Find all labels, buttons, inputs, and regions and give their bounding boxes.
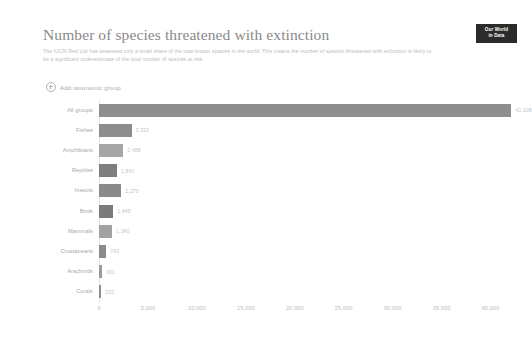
x-tick-label: 35,000 (433, 305, 451, 311)
x-tick-label: 25,000 (335, 305, 353, 311)
bar-row[interactable]: Corals232 (99, 282, 515, 302)
bar[interactable] (99, 285, 101, 298)
chart-header: Number of species threatened with extinc… (43, 26, 514, 64)
add-taxonomic-group-button[interactable]: Add taxonomic group (46, 82, 121, 92)
bar-value-label: 1,445 (117, 208, 130, 214)
plus-circle-icon (46, 82, 56, 92)
bar-category-label: Mammals (41, 228, 93, 234)
bar-value-label: 2,270 (125, 188, 138, 194)
bar[interactable] (99, 124, 132, 137)
owid-logo-line2: in Data (476, 33, 517, 39)
owid-logo[interactable]: Our World in Data (476, 24, 517, 43)
plot-area: All groups42,108Fishes3,332Amphibians2,4… (99, 100, 515, 299)
bar-category-label: Amphibians (41, 147, 93, 153)
bar-row[interactable]: Arachnids301 (99, 262, 515, 282)
bar-chart: All groups42,108Fishes3,332Amphibians2,4… (43, 100, 515, 315)
bar-category-label: Insects (41, 187, 93, 193)
bar[interactable] (99, 144, 123, 157)
add-taxonomic-group-label: Add taxonomic group (60, 84, 121, 91)
bar-value-label: 3,332 (136, 127, 149, 133)
bar-category-label: Fishes (41, 127, 93, 133)
x-tick-label: 5,000 (141, 305, 156, 311)
page-title: Number of species threatened with extinc… (43, 26, 514, 44)
page-subtitle: The IUCN Red List has assessed only a sm… (43, 47, 435, 64)
bar-row[interactable]: Birds1,445 (99, 201, 515, 221)
bar-category-label: Birds (41, 208, 93, 214)
bar-category-label: Crustaceans (41, 248, 93, 254)
bar[interactable] (99, 164, 117, 177)
x-tick-label: 40,000 (482, 305, 500, 311)
bar-value-label: 301 (106, 269, 115, 275)
bar[interactable] (99, 265, 102, 278)
x-tick-label: 10,000 (188, 305, 206, 311)
bar-row[interactable]: Crustaceans743 (99, 241, 515, 261)
bar[interactable] (99, 225, 112, 238)
bar-value-label: 42,108 (515, 107, 531, 113)
bar-category-label: Reptiles (41, 167, 93, 173)
bar-row[interactable]: Amphibians2,488 (99, 140, 515, 160)
bar[interactable] (99, 184, 121, 197)
bar-category-label: All groups (41, 107, 93, 113)
bar-value-label: 1,340 (116, 228, 129, 234)
x-tick-label: 0 (97, 305, 100, 311)
bar-value-label: 232 (105, 289, 114, 295)
bar-value-label: 743 (110, 248, 119, 254)
bar-row[interactable]: Fishes3,332 (99, 120, 515, 140)
bar[interactable] (99, 245, 106, 258)
bar-row[interactable]: All groups42,108 (99, 100, 515, 120)
bar-row[interactable]: Reptiles1,841 (99, 161, 515, 181)
bar[interactable] (99, 205, 113, 218)
bar-row[interactable]: Insects2,270 (99, 181, 515, 201)
x-axis-ticks: 05,00010,00015,00020,00025,00030,00035,0… (99, 305, 515, 317)
x-tick-label: 20,000 (286, 305, 304, 311)
bar-value-label: 2,488 (127, 147, 140, 153)
x-tick-label: 15,000 (237, 305, 255, 311)
bar-category-label: Arachnids (41, 268, 93, 274)
x-tick-label: 30,000 (384, 305, 402, 311)
bar-row[interactable]: Mammals1,340 (99, 221, 515, 241)
bar-category-label: Corals (41, 288, 93, 294)
bar[interactable] (99, 104, 511, 117)
bar-value-label: 1,841 (121, 168, 134, 174)
